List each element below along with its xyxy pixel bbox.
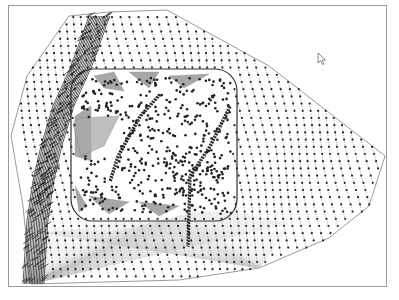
survey-point	[284, 232, 286, 234]
survey-point	[227, 45, 229, 47]
survey-point	[290, 146, 292, 148]
survey-point	[260, 160, 262, 162]
survey-point	[124, 268, 126, 270]
inner-point	[140, 158, 143, 161]
survey-point	[65, 160, 67, 162]
survey-point	[343, 139, 345, 141]
inner-point	[121, 118, 124, 121]
inner-point	[123, 132, 126, 135]
survey-point	[247, 254, 249, 256]
survey-point	[145, 45, 147, 47]
mesh-edge	[352, 140, 354, 147]
mesh-edge	[238, 104, 240, 111]
inner-point	[210, 169, 213, 172]
inner-point	[169, 101, 172, 104]
survey-point	[219, 45, 221, 47]
inner-point	[90, 172, 93, 175]
survey-point	[296, 124, 298, 126]
inner-point	[208, 199, 211, 202]
survey-point	[161, 268, 163, 270]
inner-point	[86, 102, 89, 105]
survey-point	[98, 268, 100, 270]
survey-point	[67, 203, 69, 205]
inner-point	[95, 109, 98, 112]
survey-point	[246, 232, 248, 234]
mesh-edge	[327, 183, 329, 190]
inner-point	[131, 132, 134, 135]
mesh-edge	[265, 68, 267, 75]
survey-point	[174, 247, 176, 249]
inner-point	[134, 209, 137, 212]
survey-point	[191, 67, 193, 69]
survey-point	[54, 153, 56, 155]
survey-point	[257, 189, 259, 191]
survey-point	[52, 45, 54, 47]
survey-point	[362, 182, 364, 184]
mesh-edge	[264, 96, 266, 103]
survey-point	[256, 139, 258, 141]
survey-point	[47, 196, 49, 198]
survey-point	[317, 110, 319, 112]
survey-point	[63, 74, 65, 76]
inner-point	[223, 194, 226, 197]
mesh-edge	[363, 183, 365, 190]
inner-point	[216, 139, 219, 142]
inner-point	[138, 124, 141, 127]
survey-point	[239, 182, 241, 184]
survey-point	[190, 52, 192, 54]
survey-point	[58, 203, 60, 205]
survey-point	[37, 117, 39, 119]
mesh-viewport[interactable]	[8, 5, 387, 287]
mesh-edge	[178, 262, 180, 269]
mesh-edge	[341, 204, 343, 211]
inner-point	[93, 163, 96, 166]
survey-point	[243, 52, 245, 54]
survey-point	[293, 182, 295, 184]
tin-mesh-canvas[interactable]	[9, 6, 387, 287]
inner-point	[86, 108, 89, 111]
survey-point	[289, 211, 291, 213]
survey-point	[183, 247, 185, 249]
survey-point	[300, 225, 302, 227]
mesh-edge	[262, 89, 264, 96]
survey-point	[316, 218, 318, 220]
mesh-edge	[141, 262, 143, 269]
survey-point	[344, 182, 346, 184]
survey-point	[54, 189, 56, 191]
survey-point	[296, 247, 298, 249]
inner-point	[166, 146, 169, 149]
inner-point	[85, 190, 88, 193]
inner-point	[151, 117, 154, 120]
inner-point	[149, 190, 152, 193]
survey-point	[182, 52, 184, 54]
survey-point	[51, 261, 53, 263]
mesh-edge	[354, 183, 356, 190]
inner-point	[168, 150, 171, 153]
inner-point	[196, 102, 199, 105]
survey-point	[120, 254, 122, 256]
inner-point	[111, 207, 114, 210]
survey-point	[250, 81, 252, 83]
survey-point	[67, 275, 69, 277]
inner-point	[115, 186, 118, 189]
survey-point	[269, 117, 271, 119]
inner-point	[183, 208, 186, 211]
survey-point	[336, 146, 338, 148]
survey-point	[48, 167, 50, 169]
mesh-edge	[273, 96, 275, 103]
inner-point	[149, 118, 152, 121]
inner-point	[119, 197, 122, 200]
inner-point	[140, 83, 143, 86]
survey-point	[286, 239, 288, 241]
breakline-hatch	[87, 51, 93, 55]
survey-point	[94, 239, 96, 241]
survey-point	[73, 31, 75, 33]
survey-point	[262, 247, 264, 249]
survey-point	[226, 268, 228, 270]
survey-point	[123, 67, 125, 69]
survey-point	[61, 182, 63, 184]
breakline-hatch	[106, 12, 112, 16]
survey-point	[219, 268, 221, 270]
survey-point	[227, 52, 229, 54]
survey-point	[266, 74, 268, 76]
